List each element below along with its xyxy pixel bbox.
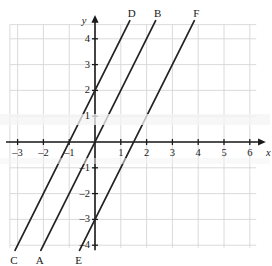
plot-line-AB bbox=[41, 21, 156, 251]
y-tick-label: –3 bbox=[80, 214, 91, 225]
y-tick-label: –4 bbox=[80, 240, 91, 251]
y-tick-label: –1 bbox=[80, 163, 91, 174]
x-tick-label: –2 bbox=[38, 148, 49, 159]
line-label-A: A bbox=[36, 255, 44, 266]
y-tick-label: 3 bbox=[85, 60, 90, 71]
line-label-D: D bbox=[128, 8, 136, 19]
x-tick-label: 5 bbox=[221, 148, 226, 159]
x-tick-label: 6 bbox=[247, 148, 252, 159]
x-tick-label: 4 bbox=[196, 148, 201, 159]
y-tick-label: 2 bbox=[85, 85, 90, 96]
x-tick-label: –3 bbox=[12, 148, 23, 159]
line-label-F: F bbox=[193, 8, 199, 19]
y-axis-arrowhead bbox=[91, 15, 98, 23]
line-label-C: C bbox=[10, 255, 17, 266]
y-tick-label: 1 bbox=[85, 111, 90, 122]
plot-line-CD bbox=[15, 21, 130, 251]
y-axis-name: y bbox=[82, 16, 87, 27]
line-label-E: E bbox=[75, 255, 82, 266]
x-tick-label: 3 bbox=[170, 148, 175, 159]
x-tick-label: –1 bbox=[64, 148, 75, 159]
x-tick-label: 2 bbox=[144, 148, 149, 159]
plotted-lines bbox=[15, 21, 194, 251]
y-tick-label: –2 bbox=[80, 189, 91, 200]
x-tick-label: 1 bbox=[118, 148, 123, 159]
line-label-B: B bbox=[154, 8, 161, 19]
x-axis-name: x bbox=[266, 148, 271, 159]
y-tick-label: 4 bbox=[85, 34, 90, 45]
gridlines bbox=[10, 25, 256, 248]
axis-lines bbox=[6, 15, 266, 250]
plot-line-EF bbox=[80, 21, 195, 251]
x-axis-arrowhead bbox=[258, 138, 266, 145]
